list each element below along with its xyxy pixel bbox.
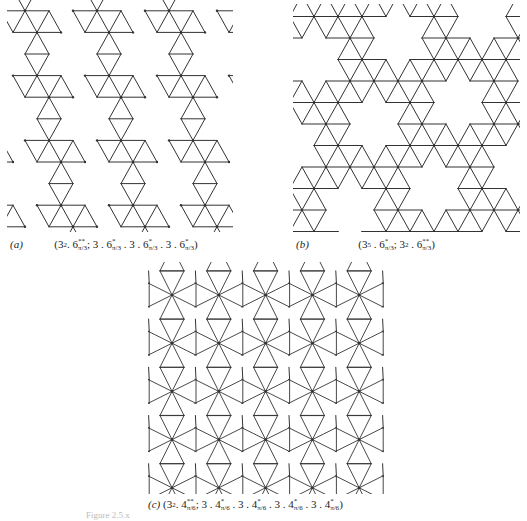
panel-c-tiling [148, 262, 384, 494]
figure-footer-text: Figure 2.5.x [86, 510, 130, 520]
caption-a: (a) (32. 6**π/3; 3 . 6*π/3 . 3 . 6*π/3 .… [10, 238, 198, 252]
tiling-a-drawing [7, 0, 233, 232]
caption-c-tag: (c) [148, 498, 160, 510]
tiling-b-drawing [293, 4, 520, 232]
caption-a-notation: (32. 6**π/3; 3 . 6*π/3 . 3 . 6*π/3 . 3 .… [54, 238, 197, 250]
caption-a-tag: (a) [10, 238, 23, 250]
panel-a-tiling [7, 0, 233, 232]
tiling-c-drawing [148, 262, 384, 494]
caption-b: (b) (35 . 6*π/3; 32 . 6**π/3) [296, 238, 435, 252]
caption-c: (c) (32. 4**π/6; 3 . 4*π/6 . 3 . 4*π/6 .… [148, 498, 343, 512]
caption-b-notation: (35 . 6*π/3; 32 . 6**π/3) [358, 238, 435, 250]
caption-b-tag: (b) [296, 238, 309, 250]
panel-b-tiling [293, 4, 520, 232]
caption-c-notation: (32. 4**π/6; 3 . 4*π/6 . 3 . 4*π/6 . 3 .… [163, 498, 343, 510]
